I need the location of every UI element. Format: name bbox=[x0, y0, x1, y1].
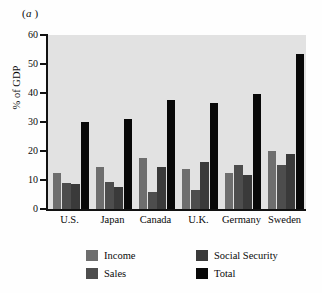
bar-income-us bbox=[53, 173, 61, 209]
bar-group bbox=[48, 35, 91, 209]
bar-total-sweden bbox=[296, 54, 304, 209]
bar-total-uk bbox=[210, 103, 218, 209]
x-axis-line bbox=[46, 209, 306, 211]
y-tick-mark bbox=[40, 150, 47, 152]
bar-social-security-us bbox=[71, 184, 79, 209]
figure-panel-a: (a ) % of GDP 0102030405060 U.S.JapanCan… bbox=[0, 0, 322, 293]
legend-swatch-icon bbox=[196, 250, 208, 261]
bar-income-sweden bbox=[268, 151, 276, 209]
legend-item-social-security: Social Security bbox=[196, 250, 278, 261]
y-tick-mark bbox=[40, 208, 47, 210]
bar-group bbox=[177, 35, 220, 209]
legend-label: Sales bbox=[104, 268, 126, 279]
legend-item-income: Income bbox=[86, 250, 136, 261]
legend-label: Social Security bbox=[214, 250, 278, 261]
bar-social-security-canada bbox=[157, 167, 165, 209]
legend-label: Total bbox=[214, 268, 235, 279]
bar-social-security-sweden bbox=[286, 154, 294, 209]
y-tick-mark bbox=[40, 63, 47, 65]
panel-label: (a ) bbox=[22, 7, 38, 19]
y-tick-label: 50 bbox=[0, 59, 38, 69]
bar-income-canada bbox=[139, 158, 147, 209]
y-tick-mark bbox=[40, 121, 47, 123]
bar-group bbox=[91, 35, 134, 209]
bar-income-japan bbox=[96, 167, 104, 209]
bar-income-uk bbox=[182, 169, 190, 209]
y-tick-label: 40 bbox=[0, 88, 38, 98]
x-axis-label-sweden: Sweden bbox=[257, 214, 312, 225]
y-tick-mark bbox=[40, 34, 47, 36]
bar-group bbox=[220, 35, 263, 209]
bar-social-security-japan bbox=[114, 187, 122, 209]
bar-sales-japan bbox=[105, 182, 113, 209]
legend-swatch-icon bbox=[196, 268, 208, 279]
bar-group bbox=[263, 35, 306, 209]
legend-label: Income bbox=[104, 250, 136, 261]
bar-social-security-germany bbox=[243, 175, 251, 210]
panel-label-suffix: ) bbox=[32, 7, 39, 19]
y-tick-label: 20 bbox=[0, 146, 38, 156]
legend-item-sales: Sales bbox=[86, 268, 126, 279]
bar-sales-germany bbox=[234, 165, 242, 209]
bar-total-us bbox=[81, 122, 89, 209]
y-tick-label: 10 bbox=[0, 175, 38, 185]
bar-total-canada bbox=[167, 100, 175, 209]
y-tick-mark bbox=[40, 179, 47, 181]
bar-sales-us bbox=[62, 183, 70, 209]
chart-legend: IncomeSalesSocial SecurityTotal bbox=[0, 248, 322, 290]
legend-swatch-icon bbox=[86, 268, 98, 279]
bar-total-germany bbox=[253, 94, 261, 209]
legend-swatch-icon bbox=[86, 250, 98, 261]
bar-total-japan bbox=[124, 119, 132, 209]
bar-sales-canada bbox=[148, 192, 156, 209]
bar-group bbox=[134, 35, 177, 209]
y-tick-label: 30 bbox=[0, 117, 38, 127]
y-tick-mark bbox=[40, 92, 47, 94]
bar-sales-sweden bbox=[277, 165, 285, 209]
legend-item-total: Total bbox=[196, 268, 235, 279]
bar-income-germany bbox=[225, 173, 233, 209]
y-tick-label: 60 bbox=[0, 30, 38, 40]
y-tick-label: 0 bbox=[0, 204, 38, 214]
bar-sales-uk bbox=[191, 190, 199, 209]
bar-social-security-uk bbox=[200, 162, 208, 209]
